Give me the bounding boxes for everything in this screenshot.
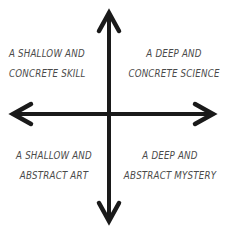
- quadrant-label-top-left: A SHALLOW AND CONCRETE SKILL: [9, 43, 86, 83]
- quadrant-bottom-right-line2: ABSTRACT MYSTERY: [122, 165, 218, 185]
- quadrant-top-left-line2: CONCRETE SKILL: [9, 63, 86, 83]
- quadrant-label-bottom-right: A DEEP AND ABSTRACT MYSTERY: [122, 145, 218, 185]
- axes-group: [0, 0, 228, 230]
- quadrant-label-bottom-left: A SHALLOW AND ABSTRACT ART: [10, 145, 98, 185]
- quadrant-bottom-left-line2: ABSTRACT ART: [10, 165, 98, 185]
- quadrant-label-top-right: A DEEP AND CONCRETE SCIENCE: [128, 43, 220, 83]
- quadrant-bottom-left-line1: A SHALLOW AND: [10, 145, 98, 165]
- quadrant-diagram: A SHALLOW AND CONCRETE SKILL A DEEP AND …: [0, 0, 228, 230]
- quadrant-top-right-line1: A DEEP AND: [128, 43, 220, 63]
- quadrant-bottom-right-line1: A DEEP AND: [122, 145, 218, 165]
- quadrant-top-right-line2: CONCRETE SCIENCE: [128, 63, 220, 83]
- quadrant-top-left-line1: A SHALLOW AND: [9, 43, 86, 63]
